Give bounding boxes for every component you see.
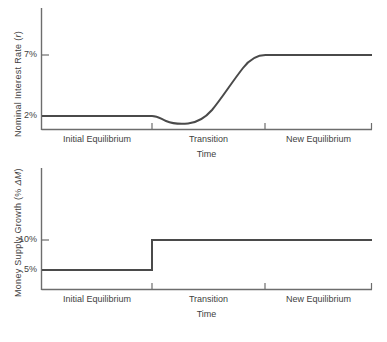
interest-rate-plot [0, 0, 387, 171]
figure-container: Nominal Interest Rate (r) 7% 2% Initial … [0, 0, 387, 342]
y-axis-title-suffix-bottom: ) [13, 168, 23, 171]
region-label-transition-top: Transition [152, 134, 265, 144]
money-supply-series-line [42, 240, 372, 270]
x-axis-title-bottom: Time [41, 309, 372, 319]
x-axis-title-top: Time [41, 149, 372, 159]
chart-panel-interest-rate: Nominal Interest Rate (r) 7% 2% Initial … [0, 0, 387, 171]
y-axis-title-money-supply: Money Supply Growth (% ΔM) [13, 168, 23, 297]
region-label-initial-equilibrium-top: Initial Equilibrium [42, 134, 152, 144]
y-axis-title-variable: r [13, 34, 23, 37]
y-axis-title-suffix: ) [13, 31, 23, 34]
y-tick-label-5-percent: 5% [1, 264, 37, 274]
region-label-new-equilibrium-top: New Equilibrium [265, 134, 372, 144]
y-axis-title-variable-bottom: ΔM [13, 171, 23, 185]
y-axis-title-interest-rate: Nominal Interest Rate (r) [13, 31, 23, 137]
y-tick-label-10-percent: 10% [1, 234, 37, 244]
y-tick-label-2-percent: 2% [5, 110, 37, 120]
y-tick-label-7-percent: 7% [5, 49, 37, 59]
region-label-new-equilibrium-bottom: New Equilibrium [265, 294, 372, 304]
region-label-initial-equilibrium-bottom: Initial Equilibrium [42, 294, 152, 304]
chart-panel-money-supply: Money Supply Growth (% ΔM) 10% 5% Initia… [0, 163, 387, 342]
region-label-transition-bottom: Transition [152, 294, 265, 304]
interest-rate-series-line [42, 55, 372, 124]
